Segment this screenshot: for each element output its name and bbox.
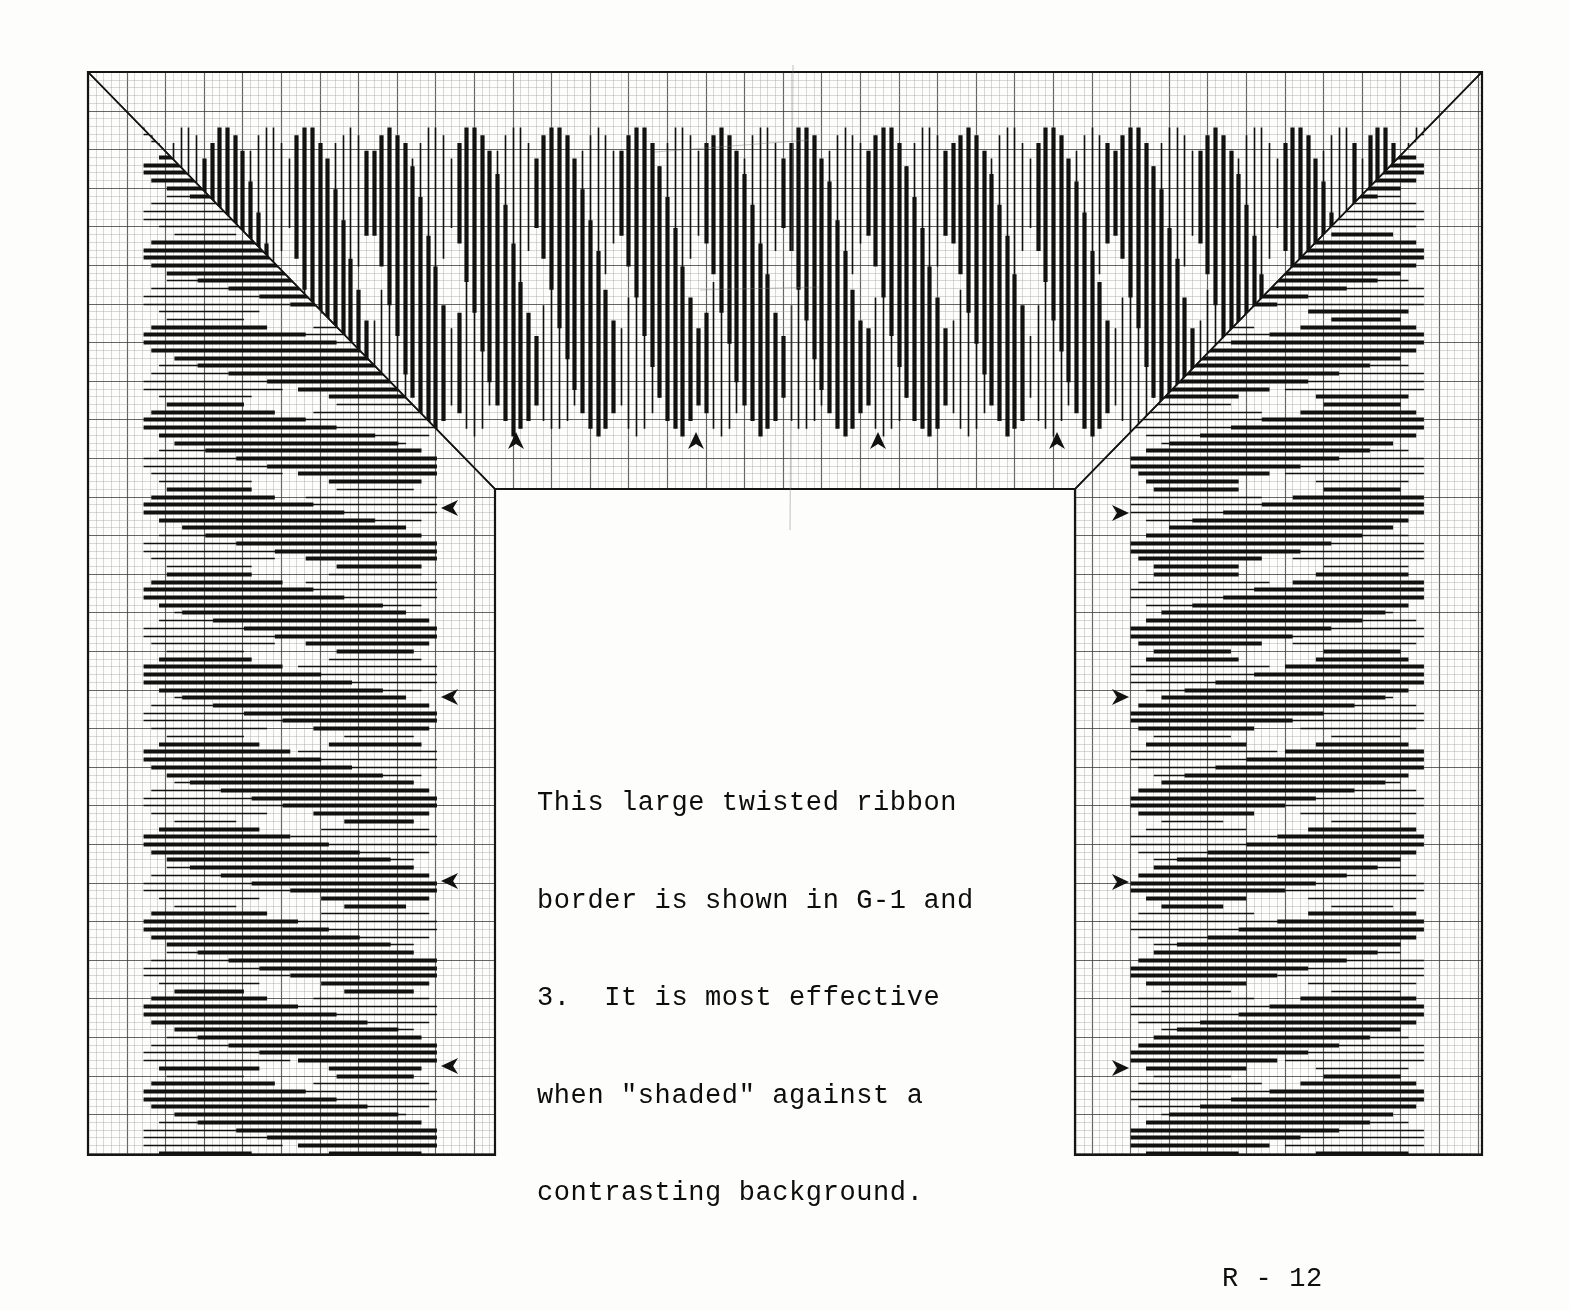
chart-page: This large twisted ribbon border is show… (0, 0, 1569, 1310)
caption-line-5: contrasting background. (537, 1177, 1037, 1210)
thread-count-legend: R - 12 C - 28 D - 27 (1222, 1198, 1323, 1310)
caption-line-1: This large twisted ribbon (537, 787, 1037, 820)
caption-line-2: border is shown in G-1 and (537, 885, 1037, 918)
caption-line-4: when "shaded" against a (537, 1080, 1037, 1113)
caption-line-3: 3. It is most effective (537, 982, 1037, 1015)
caption-text: This large twisted ribbon border is show… (537, 722, 1037, 1275)
legend-row-r: R - 12 (1222, 1263, 1323, 1296)
